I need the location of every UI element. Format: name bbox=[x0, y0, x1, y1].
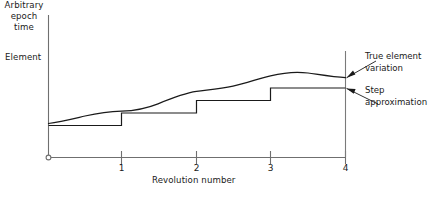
x-tick-label-3: 3 bbox=[264, 163, 278, 174]
x-tick-label-2: 2 bbox=[190, 163, 204, 174]
epoch-origin-marker bbox=[46, 155, 51, 160]
x-axis-label: Revolution number bbox=[152, 175, 235, 186]
annotation-true-line-1: True element bbox=[365, 51, 433, 63]
annotation-true-line-2: variation bbox=[365, 63, 433, 75]
true-element-variation-curve bbox=[49, 72, 346, 123]
annotation-step-approximation: Step approximation bbox=[365, 85, 435, 108]
x-tick-label-4: 4 bbox=[339, 163, 353, 174]
leader-arrowhead-step-approximation bbox=[347, 88, 356, 93]
leader-arrowhead-true-variation bbox=[347, 70, 356, 77]
y-axis-label: Element bbox=[5, 52, 41, 63]
annotation-step-line-2: approximation bbox=[365, 97, 435, 109]
step-approximation-curve bbox=[49, 88, 346, 126]
annotation-step-line-1: Step bbox=[365, 85, 435, 97]
x-tick-label-1: 1 bbox=[115, 163, 129, 174]
figure-canvas: Element Revolution number Arbitrary epoc… bbox=[0, 0, 435, 207]
annotation-true-element-variation: True element variation bbox=[365, 51, 433, 74]
